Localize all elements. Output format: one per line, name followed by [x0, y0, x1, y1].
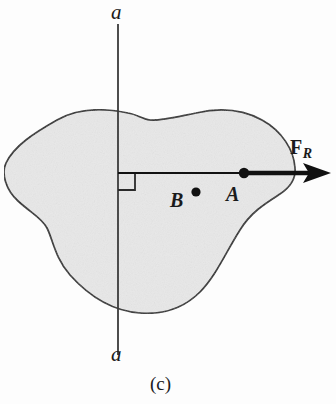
figure-graphics — [0, 0, 336, 404]
figure-container: a a A B FR (c) — [0, 0, 336, 404]
axis-label-bottom: a — [111, 344, 122, 365]
axis-label-top: a — [111, 2, 122, 23]
point-label-a: A — [226, 184, 239, 204]
rigid-body-shape — [4, 110, 295, 313]
force-label: FR — [290, 137, 312, 161]
force-symbol: F — [290, 136, 302, 158]
point-label-b: B — [170, 190, 183, 210]
force-subscript: R — [303, 146, 312, 161]
figure-caption: (c) — [150, 374, 171, 393]
point-a-marker — [239, 168, 249, 178]
point-b-marker — [191, 187, 200, 196]
